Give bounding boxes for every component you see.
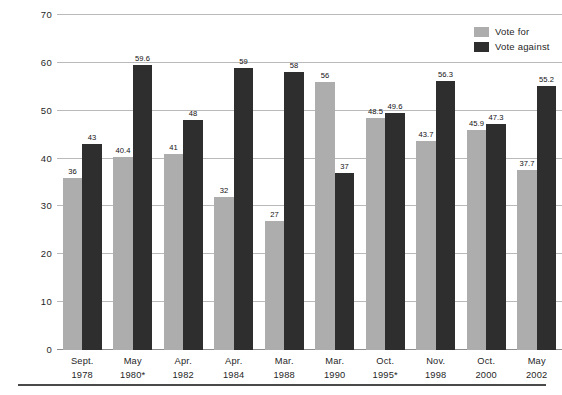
bar-value-label: 58 — [290, 61, 299, 70]
x-tick-year: 1998 — [411, 369, 462, 383]
x-tick-label: Oct.1995* — [360, 355, 411, 382]
y-tick-label: 0 — [18, 344, 52, 355]
y-tick-label: 40 — [18, 153, 52, 164]
bar-value-label: 36 — [68, 167, 77, 176]
bar-value-label: 37.7 — [519, 159, 534, 168]
bar: 56 — [315, 82, 335, 350]
bar: 48.5 — [366, 118, 386, 350]
y-tick-label: 10 — [18, 296, 52, 307]
bar-value-label: 37 — [340, 162, 349, 171]
x-tick-year: 1995* — [360, 369, 411, 383]
x-tick-month: Mar. — [275, 356, 294, 366]
bar-group: 3259 — [214, 15, 253, 350]
bar-value-label: 43.7 — [418, 130, 433, 139]
x-axis-labels: Sept.1978May1980*Apr.1982Apr.1984Mar.198… — [57, 355, 562, 385]
x-tick-month: Sept. — [71, 356, 94, 366]
bar-group: 40.459.6 — [113, 15, 152, 350]
bar: 41 — [164, 154, 184, 350]
bar: 40.4 — [113, 157, 133, 350]
bar-group: 3643 — [63, 15, 102, 350]
x-tick-label: Apr.1984 — [209, 355, 260, 382]
bar-value-label: 27 — [270, 210, 279, 219]
bar: 37.7 — [517, 170, 537, 350]
x-tick-month: May — [124, 356, 142, 366]
x-tick-year: 1984 — [209, 369, 260, 383]
x-tick-month: Mar. — [325, 356, 344, 366]
bar-group: 48.549.6 — [366, 15, 405, 350]
x-tick-label: Mar.1988 — [259, 355, 310, 382]
bar-group: 2758 — [265, 15, 304, 350]
legend-label: Vote for — [495, 26, 529, 37]
legend-label: Vote against — [495, 41, 550, 52]
bar: 45.9 — [467, 130, 487, 350]
bar-value-label: 56 — [321, 71, 330, 80]
bar: 32 — [214, 197, 234, 350]
bar-value-label: 41 — [169, 143, 178, 152]
y-tick-label: 30 — [18, 200, 52, 211]
x-tick-month: Oct. — [477, 356, 495, 366]
x-tick-label: May2002 — [512, 355, 562, 382]
chart-figure: Per cent 010203040506070 364340.459.6414… — [0, 0, 562, 395]
x-tick-year: 1990 — [310, 369, 361, 383]
bar: 47.3 — [486, 124, 506, 350]
y-tick-label: 50 — [18, 105, 52, 116]
x-tick-label: Sept.1978 — [57, 355, 108, 382]
x-tick-year: 2002 — [512, 369, 562, 383]
legend: Vote forVote against — [474, 24, 550, 54]
x-tick-label: Nov.1998 — [411, 355, 462, 382]
bar: 58 — [284, 72, 304, 350]
bar-value-label: 56.3 — [438, 70, 453, 79]
x-tick-label: Mar.1990 — [310, 355, 361, 382]
x-tick-month: May — [528, 356, 546, 366]
y-tick-label: 60 — [18, 57, 52, 68]
legend-item[interactable]: Vote for — [474, 24, 550, 39]
bar: 55.2 — [537, 86, 557, 350]
bar-group: 45.947.3 — [467, 15, 506, 350]
legend-item[interactable]: Vote against — [474, 39, 550, 54]
bar-value-label: 59 — [239, 57, 248, 66]
bar: 36 — [63, 178, 83, 350]
bar-group: 4148 — [164, 15, 203, 350]
x-tick-month: Apr. — [225, 356, 242, 366]
bar: 49.6 — [385, 113, 405, 350]
legend-swatch-icon — [474, 27, 489, 37]
x-tick-year: 1988 — [259, 369, 310, 383]
bar: 59.6 — [133, 65, 153, 350]
bar-value-label: 43 — [88, 133, 97, 142]
bar-value-label: 48 — [189, 109, 198, 118]
bar-value-label: 49.6 — [387, 102, 402, 111]
bar-value-label: 48.5 — [368, 107, 383, 116]
legend-swatch-icon — [474, 42, 489, 52]
bar-value-label: 55.2 — [539, 75, 554, 84]
bar: 56.3 — [436, 81, 456, 350]
x-tick-month: Oct. — [376, 356, 394, 366]
bar: 27 — [265, 221, 285, 350]
x-tick-year: 1982 — [158, 369, 209, 383]
bar-group: 43.756.3 — [416, 15, 455, 350]
bar: 48 — [183, 120, 203, 350]
x-tick-label: May1980* — [108, 355, 159, 382]
x-tick-month: Apr. — [175, 356, 192, 366]
bar-value-label: 59.6 — [135, 54, 150, 63]
x-tick-year: 2000 — [461, 369, 512, 383]
plot-area: 364340.459.6414832592758563748.549.643.7… — [57, 15, 562, 350]
y-tick-label: 70 — [18, 9, 52, 20]
y-tick-label: 20 — [18, 248, 52, 259]
bar-group: 37.755.2 — [517, 15, 556, 350]
x-tick-label: Oct.2000 — [461, 355, 512, 382]
x-tick-year: 1978 — [57, 369, 108, 383]
bar-value-label: 45.9 — [469, 119, 484, 128]
bar: 37 — [335, 173, 355, 350]
bottom-rule — [18, 384, 546, 386]
x-tick-month: Nov. — [426, 356, 445, 366]
x-tick-label: Apr.1982 — [158, 355, 209, 382]
x-tick-year: 1980* — [108, 369, 159, 383]
bar-value-label: 32 — [220, 186, 229, 195]
bar: 43.7 — [416, 141, 436, 350]
bar-value-label: 47.3 — [488, 113, 503, 122]
bar: 59 — [234, 68, 254, 350]
bar-group: 5637 — [315, 15, 354, 350]
bar-value-label: 40.4 — [115, 146, 130, 155]
bar: 43 — [82, 144, 102, 350]
y-axis: Per cent 010203040506070 — [0, 15, 52, 350]
